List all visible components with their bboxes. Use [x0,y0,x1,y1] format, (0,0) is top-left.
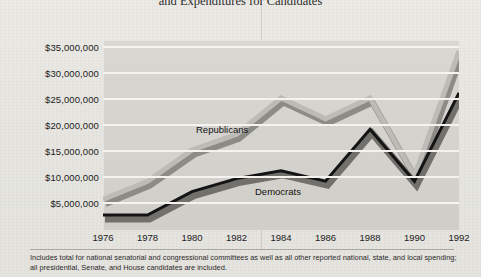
gridline [103,124,459,126]
gridline [103,202,459,204]
x-tick-label: 1980 [181,232,202,243]
chart-footnote: Includes total for national senatorial a… [30,253,460,272]
gridline [103,72,459,74]
democrats-series-label: Democrats [255,186,301,197]
x-tick-label: 1976 [92,232,113,243]
x-tick-label: 1978 [137,232,158,243]
gridline [103,46,459,48]
y-tick-label: $5,000,000 [50,198,99,209]
chart-title: and Expenditures for Candidates [0,0,481,9]
x-tick-label: 1986 [315,232,336,243]
y-tick-label: $35,000,000 [45,42,99,53]
x-tick-label: 1990 [404,232,425,243]
y-tick-label: $10,000,000 [45,172,99,183]
gridline [103,98,459,100]
x-tick-label: 1984 [270,232,291,243]
x-tick-label: 1982 [226,232,247,243]
gridline [103,176,459,178]
republicans-line-shadow [106,56,460,204]
x-axis-labels: 1976 1978 1980 1982 1984 1986 1988 1990 … [103,232,459,248]
y-tick-label: $20,000,000 [45,120,99,131]
gridline [103,150,459,152]
y-tick-label: $30,000,000 [45,68,99,79]
chart-page: and Expenditures for Candidates $35,000,… [0,0,481,277]
y-tick-label: $15,000,000 [45,146,99,157]
plot-area [103,40,459,230]
republicans-series-label: Republicans [196,124,248,135]
x-tick-label: 1988 [359,232,380,243]
x-tick-label: 1992 [448,232,469,243]
footnote-divider [30,249,454,250]
y-axis-labels: $35,000,000 $30,000,000 $25,000,000 $20,… [0,40,99,230]
y-tick-label: $25,000,000 [45,94,99,105]
